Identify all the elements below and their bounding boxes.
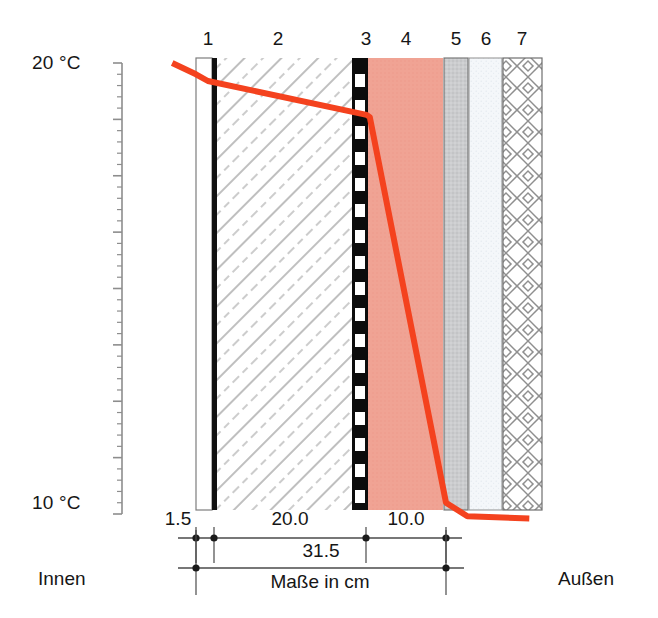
- dimension-label-1-5: 1.5: [148, 508, 208, 530]
- vapour-barrier-dashes: [355, 74, 365, 503]
- layer-5-render-carrier: [444, 58, 468, 510]
- layer-7-exterior-render: [503, 58, 542, 510]
- wall-section-temperature-diagram: 20 °C 10 °C 1 2 3 4 5 6 7: [0, 0, 658, 618]
- dimension-label-10-0: 10.0: [366, 508, 446, 530]
- unit-note: Maße in cm: [250, 571, 390, 593]
- layer-2-masonry: [217, 58, 352, 510]
- y-axis: [113, 63, 122, 514]
- dimension-label-total: 31.5: [281, 540, 361, 562]
- layer-6-base-coat: [469, 58, 502, 510]
- outer-side-label: Außen: [558, 568, 614, 590]
- layer-1-inner-plaster: [196, 58, 212, 510]
- layer-3-vapour-barrier: [352, 58, 368, 510]
- inner-side-label: Innen: [38, 568, 86, 590]
- layer-1-2-divider: [212, 58, 217, 510]
- dimension-label-20-0: 20.0: [250, 508, 330, 530]
